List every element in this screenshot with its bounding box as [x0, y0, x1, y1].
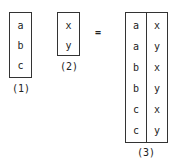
relation-1-cell: b: [10, 41, 31, 51]
relation-1-label: (1): [8, 84, 34, 94]
equals-sign: =: [95, 28, 101, 38]
relation-3-cell: y: [147, 42, 167, 52]
relation-3-cell: a: [126, 42, 146, 52]
relation-3-cell: x: [147, 105, 167, 115]
relation-3-cell: x: [147, 63, 167, 73]
relation-3-label: (3): [133, 148, 159, 158]
relation-3-cell: b: [126, 84, 146, 94]
relation-1-box: a b c: [9, 12, 32, 78]
relation-3-column-2: x y x y x y: [147, 13, 167, 142]
relation-2-cell: x: [58, 21, 79, 31]
relation-3-cell: b: [126, 63, 146, 73]
relation-2-label: (2): [56, 62, 82, 72]
relation-1-cell: c: [10, 61, 31, 71]
relation-3-cell: y: [147, 84, 167, 94]
relation-3-column-1: a a b b c c: [126, 13, 146, 142]
relation-2-cell: y: [58, 41, 79, 51]
relation-3-cell: c: [126, 126, 146, 136]
relation-3-cell: a: [126, 21, 146, 31]
relation-3-cell: c: [126, 105, 146, 115]
relation-2-box: x y: [57, 12, 80, 56]
relation-1-cell: a: [10, 21, 31, 31]
relation-3-cell: x: [147, 21, 167, 31]
relation-3-box: a a b b c c x y x y x y: [125, 12, 168, 143]
relation-3-cell: y: [147, 126, 167, 136]
